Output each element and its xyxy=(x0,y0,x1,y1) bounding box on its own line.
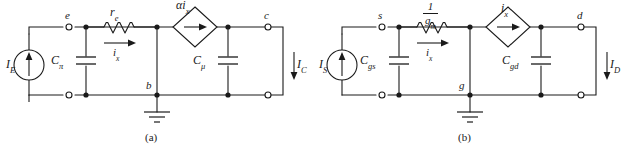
label-capacitor-cgd: Cgd xyxy=(502,54,519,66)
capacitor-cgd-symbol xyxy=(531,57,551,64)
wire-source-top-to-node-s xyxy=(342,27,376,34)
label-resistor-1-over-gm: 1 gm xyxy=(423,1,438,26)
label-capacitor-cpi: Cπ xyxy=(51,54,63,66)
resistor-gap-mask xyxy=(104,19,135,22)
wire-output-loop xyxy=(584,27,596,95)
label-node-c: c xyxy=(264,10,269,21)
label-output-current-ID: ID xyxy=(610,58,620,70)
label-source-IS: IS xyxy=(319,58,327,70)
current-source-IS-symbol xyxy=(327,50,357,80)
caption-figure-b: (b) xyxy=(458,131,471,143)
terminal-circles xyxy=(66,24,271,98)
label-capacitor-cmu: Cμ xyxy=(193,54,205,66)
figure-a-bjt-small-signal-model: IE e Cπ re ix αix c Cμ IC b (a) xyxy=(0,0,312,149)
label-source-IE: IE xyxy=(6,58,15,70)
caption-figure-a: (a) xyxy=(145,131,157,143)
current-source-IE-symbol xyxy=(14,50,44,80)
figure-b-schematic xyxy=(313,0,625,149)
figure-a-schematic xyxy=(0,0,312,149)
figure-b-fet-small-signal-model: IS s Cgs 1 gm ix ix d Cgd ID g (b) xyxy=(313,0,625,149)
label-branch-current-ix: ix xyxy=(113,47,119,58)
label-capacitor-cgs: Cgs xyxy=(360,54,376,66)
label-node-g: g xyxy=(459,80,465,91)
label-dependent-source-ix: ix xyxy=(501,2,508,14)
wire-output-loop xyxy=(271,27,283,95)
label-resistor-re: re xyxy=(110,6,118,18)
label-node-e: e xyxy=(65,10,70,21)
label-branch-current-ix: ix xyxy=(426,47,432,58)
label-node-s: s xyxy=(378,10,382,21)
label-node-b: b xyxy=(146,80,152,91)
capacitor-cmu-symbol xyxy=(218,57,238,64)
label-output-current-IC: IC xyxy=(297,58,307,70)
capacitor-cpi-symbol xyxy=(76,57,96,64)
ground-symbol xyxy=(144,112,170,122)
terminal-circles xyxy=(379,24,584,98)
label-node-d: d xyxy=(577,10,583,21)
branch-current-arrow-ix xyxy=(104,40,136,47)
ground-symbol xyxy=(457,112,483,122)
wire-source-top-to-node-e xyxy=(29,27,63,34)
circuit-diagram-figure: IE e Cπ re ix αix c Cμ IC b (a) xyxy=(0,0,625,149)
dependent-source-alpha-ix-symbol xyxy=(173,7,217,47)
capacitor-cgs-symbol xyxy=(389,57,409,64)
label-dependent-source-alpha-ix: αix xyxy=(176,0,189,11)
branch-current-arrow-ix xyxy=(417,40,449,47)
